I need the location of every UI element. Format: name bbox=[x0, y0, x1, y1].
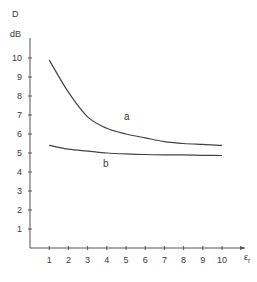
y-tick-label: 6 bbox=[17, 129, 22, 139]
curve-a bbox=[49, 60, 222, 145]
x-tick-label: 10 bbox=[217, 255, 227, 265]
axes: 1234567891012345678910 bbox=[12, 38, 245, 265]
y-tick-label: 8 bbox=[17, 91, 22, 101]
x-tick-label: 6 bbox=[143, 255, 148, 265]
y-tick-label: 3 bbox=[17, 186, 22, 196]
curve-label-b: b bbox=[103, 158, 109, 169]
y-tick-label: 1 bbox=[17, 224, 22, 234]
curve-b bbox=[49, 145, 222, 155]
y-axis-title: D bbox=[12, 9, 19, 19]
y-axis-unit: dB bbox=[10, 29, 21, 39]
y-tick-label: 5 bbox=[17, 148, 22, 158]
x-tick-label: 8 bbox=[181, 255, 186, 265]
y-tick-label: 7 bbox=[17, 110, 22, 120]
x-tick-label: 5 bbox=[123, 255, 128, 265]
x-tick-label: 3 bbox=[85, 255, 90, 265]
chart: 1234567891012345678910 ab D dB εr bbox=[0, 0, 257, 282]
x-tick-label: 2 bbox=[66, 255, 71, 265]
x-tick-label: 9 bbox=[200, 255, 205, 265]
curve-label-a: a bbox=[124, 111, 130, 122]
y-tick-label: 9 bbox=[17, 72, 22, 82]
y-tick-label: 2 bbox=[17, 205, 22, 215]
x-tick-label: 1 bbox=[47, 255, 52, 265]
curves: ab bbox=[49, 60, 222, 169]
y-tick-label: 4 bbox=[17, 167, 22, 177]
x-tick-label: 4 bbox=[104, 255, 109, 265]
x-tick-label: 7 bbox=[162, 255, 167, 265]
x-axis-title: εr bbox=[244, 252, 251, 264]
x-axis-arrow-icon bbox=[240, 246, 245, 250]
y-tick-label: 10 bbox=[12, 53, 22, 63]
